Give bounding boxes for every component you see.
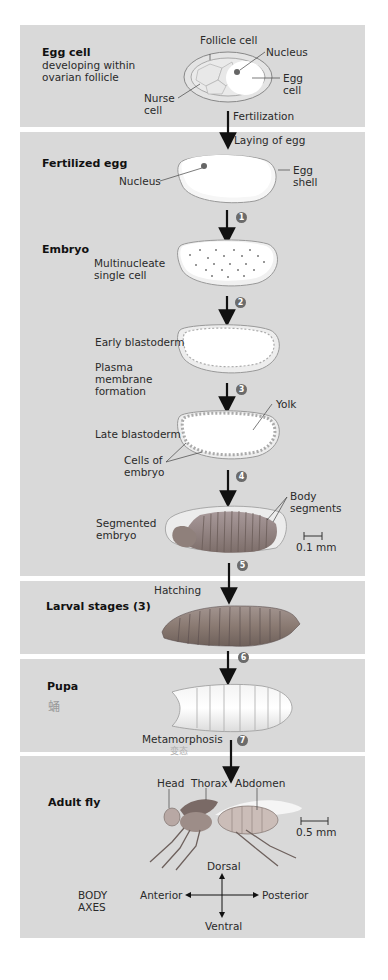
- stage-title-fertilized-egg: Fertilized egg: [42, 157, 127, 170]
- label-egg-cell-2: cell: [283, 84, 301, 96]
- label-plasma-1: Plasma: [95, 361, 133, 373]
- label-plasma-3: formation: [95, 385, 146, 397]
- label-thorax: Thorax: [191, 777, 227, 789]
- step-badge-4: 4: [236, 471, 247, 482]
- fertilized-egg-illustration: [160, 155, 290, 203]
- stage-title-adult-fly: Adult fly: [48, 796, 100, 809]
- label-multinucleate-2: single cell: [94, 269, 147, 281]
- label-nucleus-fertilized: Nucleus: [119, 175, 161, 187]
- handwritten-note-metamorphosis: 变态: [170, 744, 188, 757]
- step-badge-2: 2: [235, 297, 246, 308]
- transition-hatching: Hatching: [154, 584, 201, 596]
- label-body-segments-1: Body: [290, 490, 317, 502]
- label-late-blastoderm: Late blastoderm: [95, 428, 181, 440]
- axis-label-posterior: Posterior: [262, 889, 308, 901]
- scale-0-1-mm: 0.1 mm: [296, 541, 337, 553]
- label-egg-cell-1: Egg: [283, 72, 303, 84]
- early-blastoderm-illustration: [178, 325, 280, 373]
- stage-title-egg-cell: Egg cell: [42, 46, 91, 59]
- label-egg-shell-1: Egg: [293, 164, 313, 176]
- label-yolk: Yolk: [276, 398, 296, 410]
- axis-label-ventral: Ventral: [205, 920, 242, 932]
- axis-label-anterior: Anterior: [140, 889, 182, 901]
- egg-cell-subtitle-1: developing within: [42, 59, 135, 71]
- label-nurse-cell-1: Nurse: [144, 92, 175, 104]
- axis-label-dorsal: Dorsal: [207, 860, 241, 872]
- label-body-segments-2: segments: [290, 502, 342, 514]
- step-badge-1: 1: [236, 212, 247, 223]
- axes-title-1: BODY: [78, 889, 107, 901]
- label-plasma-2: membrane: [95, 373, 152, 385]
- label-cells-of-embryo-2: embryo: [124, 466, 164, 478]
- multinucleate-embryo-illustration: [178, 240, 278, 286]
- step-badge-6: 6: [238, 652, 249, 663]
- label-multinucleate-1: Multinucleate: [94, 257, 165, 269]
- label-abdomen: Abdomen: [235, 777, 285, 789]
- scale-0-5-mm: 0.5 mm: [296, 826, 337, 838]
- label-nurse-cell-2: cell: [144, 104, 162, 116]
- step-badge-3: 3: [236, 384, 247, 395]
- stage-title-larval: Larval stages (3): [46, 600, 151, 613]
- larva-illustration: [162, 606, 300, 646]
- label-follicle-cell: Follicle cell: [200, 34, 257, 46]
- late-blastoderm-illustration: [166, 404, 279, 462]
- label-cells-of-embryo-1: Cells of: [124, 454, 163, 466]
- label-head: Head: [157, 777, 184, 789]
- label-segmented-embryo-2: embryo: [96, 529, 136, 541]
- handwritten-note-pupa: 蛹: [48, 697, 60, 714]
- egg-cell-subtitle-2: ovarian follicle: [42, 71, 119, 83]
- transition-fertilization: Fertilization: [233, 110, 294, 122]
- pupa-illustration: [172, 684, 292, 731]
- label-segmented-embryo-1: Segmented: [96, 517, 156, 529]
- label-early-blastoderm: Early blastoderm: [95, 336, 184, 348]
- label-egg-shell-2: shell: [293, 176, 317, 188]
- follicle-illustration: [178, 52, 280, 102]
- stage-title-pupa: Pupa: [47, 680, 78, 693]
- label-nucleus-egg: Nucleus: [266, 46, 308, 58]
- stage-title-embryo: Embryo: [42, 243, 89, 256]
- transition-laying-of-egg: Laying of egg: [234, 134, 305, 146]
- step-badge-7: 7: [237, 735, 248, 746]
- body-axes-diagram: [188, 876, 256, 915]
- axes-title-2: AXES: [78, 901, 106, 913]
- step-badge-5: 5: [237, 560, 248, 571]
